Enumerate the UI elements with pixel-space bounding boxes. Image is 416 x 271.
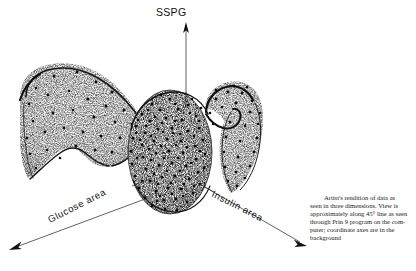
insulin-area-lobe (205, 81, 263, 193)
caption-line: through Prin 9 program on the com- (310, 218, 412, 226)
caption-line: puter; coordinate axes are in the (310, 226, 412, 234)
axis-label-sspg: SSPG (156, 6, 186, 18)
central-core-cluster (128, 90, 212, 214)
caption-line: background (310, 234, 412, 242)
figure-caption: Artist's rendition of data as seen in th… (310, 194, 412, 243)
caption-line: approximately along 45° line as seen (310, 210, 412, 218)
axis-arrow-lower-right-icon (294, 240, 307, 247)
figure-page: SSPG Glucose area Insulin area Artist's … (0, 0, 416, 271)
caption-line: seen in three dimensions. View is (310, 202, 412, 210)
caption-line: Artist's rendition of data as (310, 194, 412, 202)
